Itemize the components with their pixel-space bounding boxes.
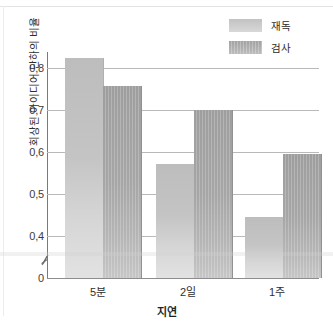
y-tick-0: 0 (14, 272, 44, 284)
bar-test-5min (103, 86, 142, 278)
legend-label-reread: 재독 (271, 18, 291, 33)
legend-item-reread: 재독 (229, 16, 325, 34)
chart-figure: 재독 검사 0,8 0,7 0,6 0,5 0,4 0 회상된 아이디어 단하의… (0, 0, 333, 327)
bar-test-2day (194, 110, 233, 278)
plot-area (47, 60, 319, 278)
y-tick-0-4: 0,4 (14, 230, 44, 242)
y-tick-0-5: 0,5 (14, 188, 44, 200)
x-axis-title: 지연 (0, 303, 333, 319)
legend-swatch-reread (229, 19, 262, 32)
x-axis-line (47, 278, 319, 279)
page-edge-line-left (3, 6, 4, 316)
page-edge-line (0, 6, 333, 7)
chart-legend: 재독 검사 (229, 16, 325, 60)
x-tick-1week: 1주 (237, 283, 317, 299)
bar-reread-2day (156, 164, 195, 278)
x-tick-2day: 2일 (148, 283, 228, 299)
legend-label-test: 검사 (271, 40, 291, 55)
bar-test-1week (283, 154, 322, 278)
bar-reread-1week (245, 217, 284, 278)
legend-swatch-test (229, 41, 262, 54)
bar-reread-5min (65, 58, 104, 278)
legend-item-test: 검사 (229, 38, 325, 56)
x-tick-5min: 5분 (58, 283, 138, 299)
y-axis-title: 회상된 아이디어 단하의 비율 (26, 2, 41, 162)
